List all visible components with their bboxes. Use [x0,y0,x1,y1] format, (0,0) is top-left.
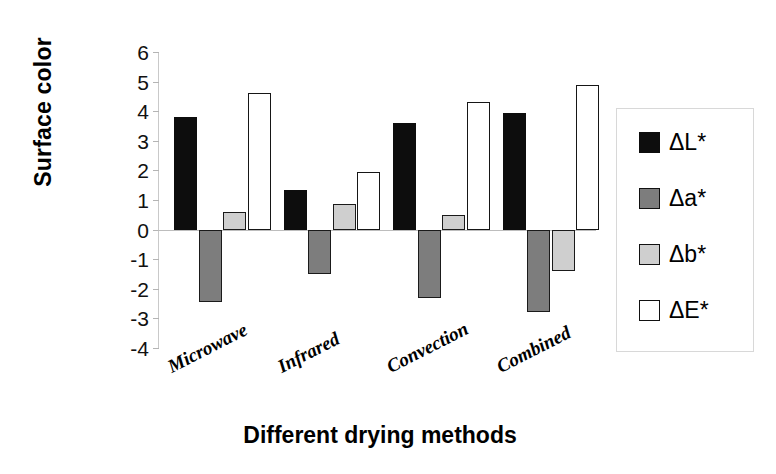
y-tick-label: -2 [109,278,149,299]
y-tick [153,259,159,260]
bar-group [503,52,600,348]
legend-swatch-icon [639,132,660,153]
bar [527,230,550,313]
bar [333,204,356,229]
y-tick [153,318,159,319]
y-tick-label: 0 [109,219,149,240]
legend-swatch-icon [639,188,660,209]
y-tick-label: -3 [109,308,149,329]
bar [357,172,380,230]
bar [223,212,246,230]
plot-area: 6543210-1-2-3-4 [158,52,596,348]
y-tick-label: -1 [109,249,149,270]
y-tick-label: 4 [109,101,149,122]
legend-item[interactable]: Δb* [639,241,706,267]
bar [503,113,526,230]
y-tick [153,200,159,201]
bar [174,117,197,229]
bar [418,230,441,298]
y-tick [153,348,159,349]
y-tick-label: 6 [109,42,149,63]
legend-item[interactable]: ΔL* [639,129,706,155]
y-tick-label: 1 [109,190,149,211]
legend-label: Δa* [669,185,706,212]
bar-group [393,52,490,348]
y-tick [153,141,159,142]
y-tick [153,82,159,83]
bar [393,123,416,230]
legend-label: ΔE* [669,297,709,324]
bar [248,93,271,229]
y-tick-label: 2 [109,160,149,181]
y-tick [153,52,159,53]
bar [576,85,599,230]
legend-label: ΔL* [669,129,706,156]
chart-legend: ΔL*Δa*Δb*ΔE* [616,108,754,352]
y-tick [153,289,159,290]
bar [442,215,465,230]
bar-chart: Surface color 6543210-1-2-3-4 MicrowaveI… [0,0,776,474]
bar [308,230,331,274]
legend-swatch-icon [639,244,660,265]
x-axis-title: Different drying methods [150,422,610,449]
bar [467,102,490,229]
y-axis-title: Surface color [23,7,63,217]
bar-group [174,52,271,348]
y-tick [153,170,159,171]
bar [199,230,222,303]
legend-item[interactable]: Δa* [639,185,706,211]
bar [284,190,307,230]
y-tick-label: -4 [109,338,149,359]
y-tick [153,111,159,112]
legend-item[interactable]: ΔE* [639,297,709,323]
legend-label: Δb* [669,241,706,268]
bar-group [284,52,381,348]
y-tick-label: 3 [109,130,149,151]
bar [552,230,575,271]
legend-swatch-icon [639,300,660,321]
y-tick-label: 5 [109,71,149,92]
